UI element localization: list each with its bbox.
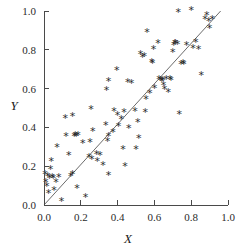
x-tick-label: 0.2 — [74, 211, 88, 223]
y-tick-label: 1.0 — [22, 5, 36, 17]
data-point: * — [56, 171, 62, 184]
data-point: * — [59, 195, 65, 208]
x-tick-label: 1.0 — [221, 211, 235, 223]
data-point: * — [210, 13, 216, 26]
data-point: * — [49, 155, 55, 168]
data-point: * — [80, 137, 86, 150]
data-point: * — [54, 141, 60, 154]
x-axis-title: X — [123, 231, 133, 246]
data-point: * — [168, 74, 174, 87]
data-point: * — [196, 43, 202, 56]
data-point: * — [165, 86, 171, 99]
data-point: * — [66, 149, 72, 162]
y-axis-title: Y — [10, 98, 19, 113]
data-point: * — [175, 38, 181, 51]
x-tick-label: 0.0 — [37, 211, 51, 223]
data-point: * — [155, 37, 161, 50]
data-point: * — [184, 39, 190, 52]
x-axis-ticks: 0.00.20.40.60.81.0 — [37, 200, 235, 223]
data-point: * — [121, 106, 127, 119]
data-point: * — [120, 143, 126, 156]
data-point: * — [87, 136, 93, 149]
chart-canvas: ****************************************… — [0, 0, 248, 251]
data-point: * — [90, 125, 96, 138]
data-point: * — [142, 106, 148, 119]
data-point-markers: ****************************************… — [42, 4, 215, 208]
data-point: * — [129, 77, 135, 90]
data-point: * — [136, 132, 142, 145]
data-point: * — [62, 112, 68, 125]
data-point: * — [199, 69, 205, 82]
y-tick-label: 0.6 — [22, 83, 36, 95]
data-point: * — [135, 116, 141, 129]
data-point: * — [106, 169, 112, 182]
data-point: * — [83, 191, 89, 204]
y-tick-label: 0.8 — [22, 44, 36, 56]
data-point: * — [88, 103, 94, 116]
data-point: * — [133, 143, 139, 156]
x-tick-label: 0.4 — [111, 211, 125, 223]
data-point: * — [70, 168, 76, 181]
data-point: * — [176, 6, 182, 19]
data-point: * — [63, 130, 69, 143]
data-point: * — [188, 4, 194, 17]
y-tick-label: 0.0 — [22, 199, 36, 211]
y-tick-label: 0.2 — [22, 160, 36, 172]
data-point: * — [114, 64, 120, 77]
data-point: * — [122, 160, 128, 173]
data-point: * — [142, 50, 148, 63]
x-tick-label: 0.8 — [184, 211, 198, 223]
data-point: * — [74, 182, 80, 195]
data-point: * — [106, 75, 112, 88]
scatter-plot-figure: ****************************************… — [0, 0, 248, 251]
y-tick-label: 0.4 — [22, 121, 36, 133]
data-point: * — [144, 26, 150, 39]
data-point: * — [70, 110, 76, 123]
x-tick-label: 0.6 — [148, 211, 162, 223]
data-point: * — [176, 108, 182, 121]
data-point: * — [126, 122, 132, 135]
data-point: * — [181, 58, 187, 71]
data-point: * — [150, 57, 156, 70]
